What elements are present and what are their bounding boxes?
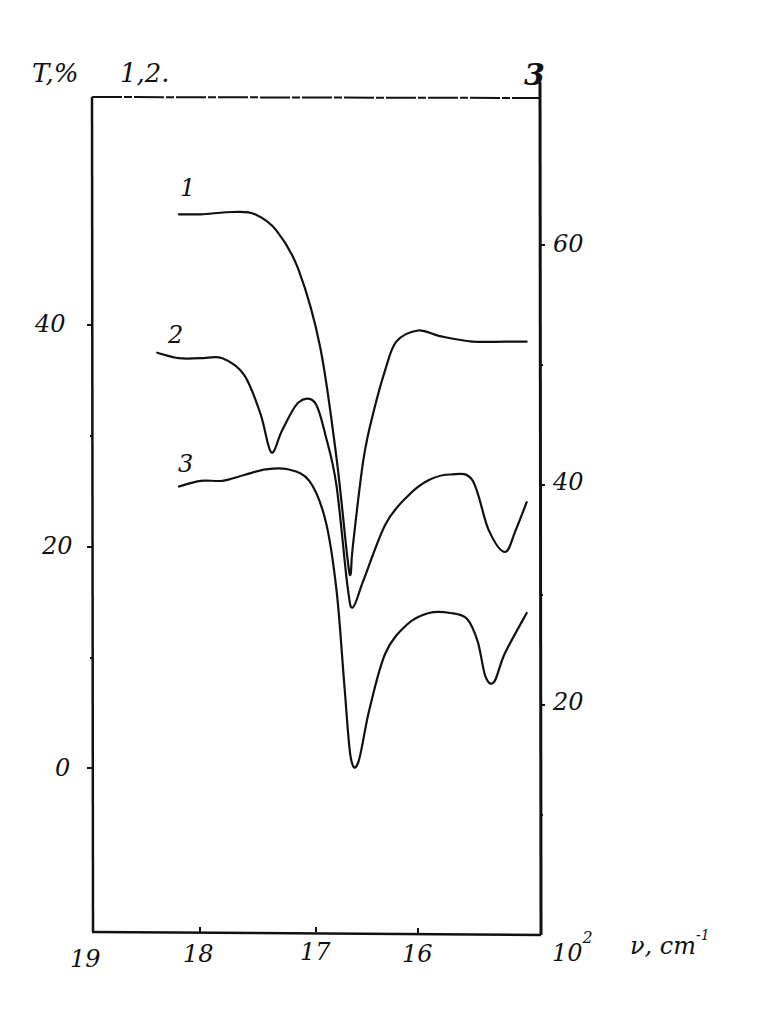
curve-label-3: 3 xyxy=(178,452,193,476)
top-border xyxy=(92,97,540,98)
curve-1 xyxy=(179,212,527,575)
right-tick-60: 60 xyxy=(553,232,584,256)
x-tick-18: 18 xyxy=(183,942,214,966)
x-axis-unit: 102 xyxy=(552,930,593,965)
x-axis-unit-base: 10 xyxy=(552,939,583,967)
left-axis-title: T,% xyxy=(32,60,79,86)
x-axis-unit-exponent: 2 xyxy=(583,928,593,947)
left-tick-20: 20 xyxy=(42,534,73,558)
left-axis-series-note: 1,2. xyxy=(120,60,170,86)
curve-3 xyxy=(179,468,527,768)
left-tick-40: 40 xyxy=(35,312,66,336)
x-tick-17: 17 xyxy=(300,940,331,964)
curve-label-2: 2 xyxy=(168,323,183,347)
left-tick-0: 0 xyxy=(55,756,70,780)
panel-label: 3 xyxy=(524,60,545,90)
x-axis-symbol: ν, cm-1 xyxy=(630,928,710,958)
x-tick-19: 19 xyxy=(70,947,101,971)
x-tick-16: 16 xyxy=(402,942,433,966)
curves-group xyxy=(157,212,527,768)
right-tick-20: 20 xyxy=(553,690,584,714)
x-axis-symbol-exponent: -1 xyxy=(696,927,710,943)
x-axis xyxy=(92,932,541,935)
plot-area xyxy=(0,0,759,1024)
x-axis-symbol-text: ν, cm xyxy=(630,932,696,960)
left-axis xyxy=(92,97,93,932)
curve-label-1: 1 xyxy=(180,176,195,200)
right-tick-40: 40 xyxy=(553,470,584,494)
right-axis xyxy=(540,82,541,935)
